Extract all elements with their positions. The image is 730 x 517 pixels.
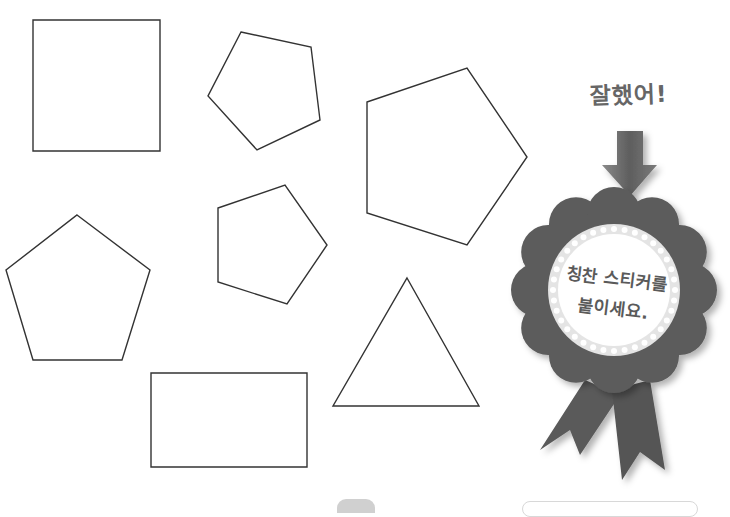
square-shape [33,20,160,151]
praise-heading: 잘했어! [589,75,668,112]
triangle-shape [333,278,479,406]
bottom-tab [337,499,375,513]
pentagon-shape [218,185,327,304]
pentagon-shape [367,68,527,245]
ribbon-tails [540,380,665,480]
pentagon-shape [6,215,150,360]
bottom-box [522,501,698,517]
shape-group [6,20,527,467]
rectangle-shape [151,373,307,467]
pentagon-shape [208,32,320,150]
down-arrow-icon [602,131,657,196]
